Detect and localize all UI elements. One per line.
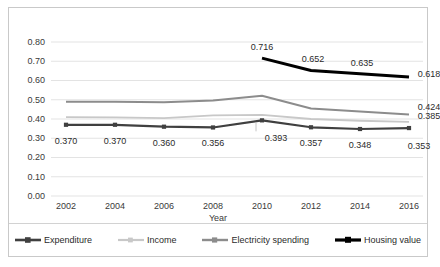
x-tick-6: 2014	[350, 201, 370, 211]
data-label-expenditure-2016: 0.353	[408, 141, 431, 151]
legend-label-income: Income	[147, 235, 177, 245]
y-tick-4: 0.40	[19, 114, 45, 124]
data-label-expenditure-2002: 0.370	[55, 136, 78, 146]
x-tick-4: 2010	[252, 201, 272, 211]
chart-frame: 0.80 0.70 0.60 0.50 0.40 0.30 0.20 0.10 …	[8, 7, 428, 257]
series-lines	[64, 58, 411, 131]
chart-legend: Expenditure Income Electricity spending	[9, 224, 427, 256]
series-line-electricity-spending	[66, 96, 409, 115]
data-label-housing-value-2016: 0.618	[418, 69, 440, 79]
y-tick-2: 0.60	[19, 75, 45, 85]
y-tick-1: 0.70	[19, 56, 45, 66]
data-point-marker	[260, 118, 264, 122]
series-line-income	[66, 115, 409, 122]
x-tick-5: 2012	[301, 201, 321, 211]
legend-item-electricity-spending[interactable]: Electricity spending	[202, 235, 309, 245]
legend-label-electricity-spending: Electricity spending	[231, 235, 309, 245]
x-tick-1: 2004	[105, 201, 125, 211]
data-point-marker	[407, 126, 411, 130]
x-tick-2: 2006	[154, 201, 174, 211]
x-tick-7: 2016	[399, 201, 419, 211]
x-tick-3: 2008	[203, 201, 223, 211]
series-line-expenditure	[66, 120, 409, 129]
legend-swatch-expenditure-icon	[15, 235, 41, 245]
data-label-income-2016: 0.385	[418, 111, 440, 121]
legend-swatch-electricity-icon	[202, 235, 228, 245]
data-point-marker	[64, 123, 68, 127]
y-tick-6: 0.20	[19, 152, 45, 162]
y-tick-3: 0.50	[19, 95, 45, 105]
data-label-expenditure-2006: 0.360	[153, 138, 176, 148]
y-tick-8: 0.00	[19, 191, 45, 201]
data-label-expenditure-2004: 0.370	[104, 136, 127, 146]
legend-item-income[interactable]: Income	[118, 235, 177, 245]
data-point-marker	[358, 127, 362, 131]
y-tick-5: 0.30	[19, 133, 45, 143]
data-label-housing-value-2012: 0.652	[302, 54, 325, 64]
data-point-marker	[309, 125, 313, 129]
y-tick-0: 0.80	[19, 37, 45, 47]
legend-label-housing-value: Housing value	[364, 235, 421, 245]
data-label-expenditure-2010: 0.393	[265, 133, 288, 143]
x-axis-title: Year	[9, 213, 427, 223]
legend-item-housing-value[interactable]: Housing value	[335, 235, 421, 245]
x-tick-0: 2002	[56, 201, 76, 211]
legend-swatch-housing-icon	[335, 235, 361, 245]
data-label-housing-value-2010: 0.716	[251, 42, 274, 52]
plot-area: 0.80 0.70 0.60 0.50 0.40 0.30 0.20 0.10 …	[9, 8, 427, 223]
data-label-expenditure-2012: 0.357	[300, 138, 323, 148]
data-label-expenditure-2014: 0.348	[349, 140, 372, 150]
y-tick-7: 0.10	[19, 172, 45, 182]
legend-item-expenditure[interactable]: Expenditure	[15, 235, 92, 245]
data-label-housing-value-2014: 0.635	[351, 58, 374, 68]
data-point-marker	[113, 123, 117, 127]
data-label-expenditure-2008: 0.356	[202, 138, 225, 148]
data-point-marker	[211, 125, 215, 129]
plot-svg	[9, 8, 427, 223]
legend-swatch-income-icon	[118, 235, 144, 245]
y-axis: 0.80 0.70 0.60 0.50 0.40 0.30 0.20 0.10 …	[15, 8, 45, 223]
data-point-marker	[162, 125, 166, 129]
legend-label-expenditure: Expenditure	[44, 235, 92, 245]
